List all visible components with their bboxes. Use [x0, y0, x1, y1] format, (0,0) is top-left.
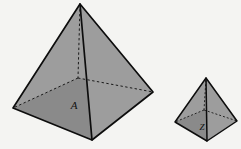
small-pyramid-front-lateral-edge — [206, 78, 207, 141]
pyramids-diagram: A Z — [0, 0, 241, 149]
geometry-figure: A Z — [0, 0, 241, 149]
large-pyramid-label: A — [70, 99, 78, 111]
